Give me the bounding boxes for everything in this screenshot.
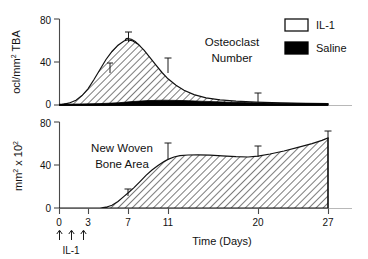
y-axis-label-top: ocl/mm2 TBA	[10, 30, 22, 94]
y-tick-bottom-80: 80	[40, 118, 52, 129]
y-tick-bottom-0: 0	[45, 203, 51, 214]
x-tick-label-27: 27	[322, 217, 334, 228]
panel-title-bottom-line1: New Woven	[91, 142, 153, 154]
dose-arrows-label: IL-1	[62, 245, 80, 256]
x-tick-label-3: 3	[85, 217, 91, 228]
panel-title-top-line1: Osteoclast	[205, 36, 260, 48]
y-tick-top-0: 0	[45, 99, 51, 110]
x-tick-label-7: 7	[125, 217, 131, 228]
figure-container: ocl/mm2 TBA 0 40 80	[0, 0, 368, 259]
svg-text:ocl/mm2 TBA: ocl/mm2 TBA	[10, 30, 22, 94]
panel-title-bottom-line2: Bone Area	[95, 158, 149, 170]
x-tick-label-20: 20	[252, 217, 264, 228]
y-axis-label-top-tail: TBA	[10, 30, 22, 55]
legend-label-il1: IL-1	[316, 19, 335, 31]
x-axis-label: Time (Days)	[192, 235, 251, 247]
legend-swatch-saline	[285, 42, 308, 54]
y-axis-label-bottom: mm2 x 102	[12, 141, 24, 191]
y-tick-bottom-40: 40	[40, 160, 52, 171]
y-axis-label-top-main: ocl/mm	[10, 58, 22, 93]
y-tick-top-80: 80	[40, 15, 52, 26]
y-axis-label-bottom-main: mm	[12, 173, 24, 191]
x-tick-label-11: 11	[163, 217, 174, 228]
legend-swatch-il1	[285, 19, 308, 31]
x-tick-label-0: 0	[56, 217, 62, 228]
panel-title-top-line2: Number	[212, 52, 253, 64]
svg-text:mm2 x 102: mm2 x 102	[12, 141, 24, 191]
legend-label-saline: Saline	[316, 42, 347, 54]
figure-background	[0, 0, 368, 259]
y-tick-top-40: 40	[40, 57, 52, 68]
y-axis-label-bottom-tail: x 10	[12, 145, 24, 169]
y-axis-label-bottom-sup2: 2	[12, 141, 19, 145]
